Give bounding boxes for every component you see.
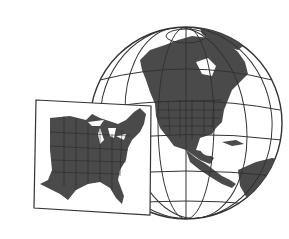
inset-map <box>34 100 151 215</box>
globe-inset-illustration <box>0 0 289 239</box>
